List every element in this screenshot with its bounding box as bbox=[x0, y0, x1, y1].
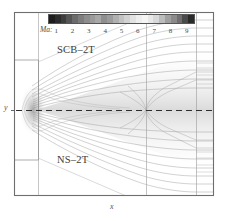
cfd-contour-figure: 123456789 Ma: SCB–2T NS–2T y x bbox=[0, 0, 228, 221]
colorbar-tick-3: 3 bbox=[84, 27, 94, 35]
colorbar-tick-9: 9 bbox=[182, 27, 192, 35]
figure-canvas bbox=[0, 0, 228, 221]
region-label-scb2t: SCB–2T bbox=[57, 45, 95, 56]
colorbar-title: Ma: bbox=[40, 26, 53, 34]
colorbar-tick-4: 4 bbox=[100, 27, 110, 35]
nozzle-core-glow bbox=[19, 84, 47, 136]
region-label-ns2t: NS–2T bbox=[57, 155, 88, 166]
colorbar bbox=[48, 14, 195, 24]
colorbar-tick-2: 2 bbox=[68, 27, 78, 35]
colorbar-tick-5: 5 bbox=[117, 27, 127, 35]
x-axis-label: x bbox=[110, 203, 114, 211]
colorbar-tick-8: 8 bbox=[166, 27, 176, 35]
colorbar-tick-7: 7 bbox=[149, 27, 159, 35]
y-axis-label: y bbox=[4, 104, 8, 112]
colorbar-band bbox=[188, 15, 194, 23]
colorbar-tick-6: 6 bbox=[133, 27, 143, 35]
